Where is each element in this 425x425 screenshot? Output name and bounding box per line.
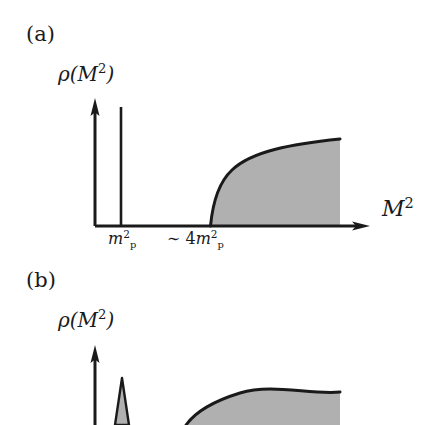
spectral-density-figure: (a) ρ(M2) M2 m2p ∼ 4m2p bbox=[0, 0, 425, 425]
panel-a: (a) ρ(M2) M2 m2p ∼ 4m2p bbox=[0, 0, 425, 255]
panel-a-tick-pole-mass: m2p bbox=[108, 229, 136, 248]
tick-coefficient: 4 bbox=[186, 229, 196, 248]
panel-a-plot bbox=[0, 0, 425, 255]
panel-b: (b) ρ(M2) bbox=[0, 255, 425, 425]
x-label-exponent: 2 bbox=[405, 195, 414, 211]
tick-superscript: 2 bbox=[123, 228, 130, 240]
tick-superscript: 2 bbox=[211, 228, 218, 240]
panel-a-continuum-fill bbox=[211, 139, 341, 226]
tick-symbol: m bbox=[196, 229, 211, 248]
x-label-variable: M bbox=[382, 196, 405, 221]
panel-a-tick-continuum-threshold: ∼ 4m2p bbox=[167, 229, 224, 248]
panel-a-x-axis-label: M2 bbox=[382, 196, 414, 221]
tick-prefix: ∼ bbox=[167, 229, 186, 248]
tick-symbol: m bbox=[108, 229, 123, 248]
panel-b-resonance-peak bbox=[115, 378, 129, 425]
panel-b-plot bbox=[0, 255, 425, 425]
tick-subscript: p bbox=[218, 239, 224, 250]
tick-subscript: p bbox=[130, 239, 136, 250]
